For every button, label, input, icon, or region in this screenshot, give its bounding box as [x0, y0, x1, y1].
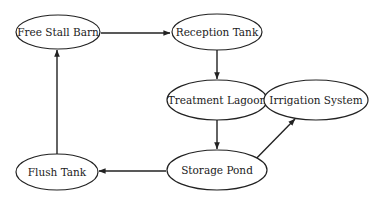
node-treatment-lagoon: Treatment Lagoon — [167, 80, 267, 120]
node-reception-tank: Reception Tank — [172, 14, 262, 50]
node-storage-pond: Storage Pond — [167, 150, 267, 190]
node-free-stall-barn: Free Stall Barn — [16, 15, 100, 49]
node-label: Irrigation System — [269, 94, 362, 106]
node-label: Storage Pond — [181, 164, 253, 176]
node-label: Reception Tank — [176, 26, 259, 38]
node-label: Free Stall Barn — [17, 26, 99, 38]
node-flush-tank: Flush Tank — [16, 154, 98, 190]
node-label: Flush Tank — [28, 166, 87, 178]
node-irrigation-system: Irrigation System — [264, 80, 368, 120]
flow-diagram: Free Stall Barn Reception Tank Treatment… — [0, 0, 370, 198]
node-label: Treatment Lagoon — [168, 94, 267, 106]
nodes: Free Stall Barn Reception Tank Treatment… — [16, 14, 368, 190]
